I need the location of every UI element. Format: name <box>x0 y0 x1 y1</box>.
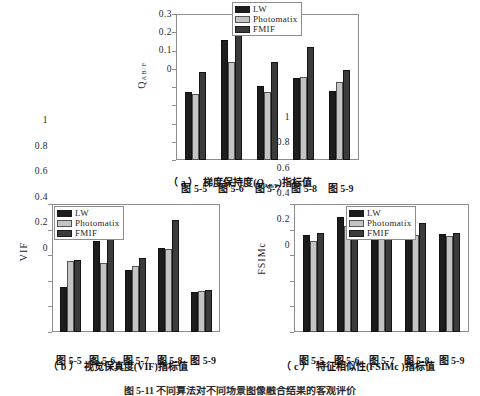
y-tick-mark <box>290 255 294 256</box>
legend-label-fmif: FMIF <box>253 25 275 34</box>
bar-photomatix-5 <box>198 291 205 332</box>
bar-group <box>439 204 460 332</box>
y-tick-mark <box>290 306 294 307</box>
bar-fmif-4 <box>172 220 179 332</box>
y-tick-label: 0.4 <box>277 188 290 198</box>
legend-b: LW Photomatix FMIF <box>54 206 124 240</box>
bar-fmif-3 <box>139 258 146 332</box>
legend-c: LW Photomatix FMIF <box>346 206 416 240</box>
legend-label-lw: LW <box>75 209 89 218</box>
bar-lw-4 <box>405 239 412 332</box>
y-tick-mark <box>172 69 176 70</box>
bar-photomatix-4 <box>300 77 307 160</box>
y-axis-label-a: QAB/F <box>136 62 147 89</box>
bar-lw-4 <box>293 78 300 160</box>
figure-bottom-caption: 图 5-11 不同算法对不同场景图像融合结果的客观评价 <box>0 386 480 396</box>
bar-photomatix-5 <box>446 236 453 332</box>
bar-lw-1 <box>60 287 67 332</box>
y-tick-mark <box>172 124 176 125</box>
y-tick-label: 0.2 <box>159 27 172 37</box>
y-axis-label-b: VIF <box>18 242 29 261</box>
bar-fmif-1 <box>317 233 324 332</box>
bar-fmif-5 <box>343 70 350 160</box>
legend-label-photomatix: Photomatix <box>367 219 412 228</box>
y-tick-mark <box>48 281 52 282</box>
y-tick-label: 0.1 <box>159 45 172 55</box>
bar-photomatix-3 <box>132 266 139 332</box>
y-tick-mark <box>172 51 176 52</box>
legend-swatch-fmif <box>235 26 250 33</box>
y-tick-mark <box>172 105 176 106</box>
x-axis-ticks-c: 图 5-5图 5-6图 5-7图 5-8图 5-9 <box>294 332 469 348</box>
chart-panel-a: QAB/F 00.10.20.30.40.50.60.70.8 图 5-5图 5… <box>0 0 480 190</box>
bar-photomatix-1 <box>67 261 74 332</box>
chart-panel-c: FSIMc 00.20.40.60.81 图 5-5图 5-6图 5-7图 5-… <box>236 190 480 396</box>
figure-container: QAB/F 00.10.20.30.40.50.60.70.8 图 5-5图 5… <box>0 0 480 396</box>
legend-swatch-fmif <box>349 230 364 237</box>
bar-fmif-4 <box>419 223 426 332</box>
legend-swatch-photomatix <box>57 220 72 227</box>
y-tick-mark <box>48 306 52 307</box>
y-tick-mark <box>172 32 176 33</box>
legend-item-fmif: FMIF <box>57 228 120 238</box>
y-tick-label: 0.6 <box>35 166 48 176</box>
bar-photomatix-3 <box>378 232 385 332</box>
bar-photomatix-3 <box>264 92 271 160</box>
bar-lw-5 <box>329 91 336 160</box>
bar-photomatix-1 <box>310 241 317 332</box>
y-tick-mark <box>48 230 52 231</box>
y-tick-label: 0 <box>285 240 290 250</box>
bar-fmif-2 <box>107 231 114 332</box>
legend-a: LW Photomatix FMIF <box>232 2 302 36</box>
legend-label-photomatix: Photomatix <box>253 15 298 24</box>
y-tick-mark <box>290 204 294 205</box>
legend-swatch-lw <box>349 210 364 217</box>
y-tick-label: 1 <box>285 112 290 122</box>
panel-caption-a: （ a ） 梯度保持度(QAB/F)指标值 <box>0 174 480 189</box>
bar-fmif-2 <box>235 18 242 160</box>
y-tick-label: 1 <box>43 115 48 125</box>
legend-item-lw: LW <box>235 4 298 14</box>
bar-fmif-1 <box>199 72 206 160</box>
legend-label-lw: LW <box>367 209 381 218</box>
legend-item-photomatix: Photomatix <box>235 14 298 24</box>
bar-group <box>125 204 146 332</box>
y-tick-label: 0.2 <box>35 217 48 227</box>
y-tick-label: 0.2 <box>277 214 290 224</box>
legend-swatch-fmif <box>57 230 72 237</box>
bar-fmif-5 <box>205 290 212 332</box>
bar-lw-5 <box>191 292 198 332</box>
legend-label-photomatix: Photomatix <box>75 219 120 228</box>
panel-caption-b: （ b ） 视觉保真度(VIF)指标值 <box>0 358 236 373</box>
x-axis-ticks-b: 图 5-5图 5-6图 5-7图 5-8图 5-9 <box>52 332 220 348</box>
bar-lw-1 <box>303 235 310 332</box>
bar-lw-5 <box>439 234 446 332</box>
bar-lw-3 <box>125 270 132 332</box>
y-tick-mark <box>290 230 294 231</box>
y-tick-mark <box>48 204 52 205</box>
bar-group <box>329 14 350 160</box>
y-tick-label: 0.8 <box>35 141 48 151</box>
chart-panel-b: VIF 00.20.40.60.81 图 5-5图 5-6图 5-7图 5-8图… <box>0 190 236 396</box>
bar-group <box>185 14 206 160</box>
bar-photomatix-2 <box>100 263 107 332</box>
legend-label-fmif: FMIF <box>75 229 97 238</box>
bar-fmif-4 <box>307 47 314 160</box>
y-tick-label: 0.4 <box>35 192 48 202</box>
y-tick-mark <box>48 255 52 256</box>
bar-group <box>191 204 212 332</box>
legend-swatch-lw <box>57 210 72 217</box>
y-axis-label-c: FSIMc <box>256 242 267 275</box>
legend-item-fmif: FMIF <box>349 228 412 238</box>
bar-fmif-1 <box>74 260 81 332</box>
y-tick-label: 0.3 <box>159 9 172 19</box>
bar-lw-1 <box>185 92 192 160</box>
bar-group <box>303 204 324 332</box>
bar-lw-3 <box>257 86 264 160</box>
bar-photomatix-2 <box>344 226 351 332</box>
legend-label-fmif: FMIF <box>367 229 389 238</box>
bar-group <box>158 204 179 332</box>
legend-item-lw: LW <box>57 208 120 218</box>
legend-item-photomatix: Photomatix <box>349 218 412 228</box>
legend-item-lw: LW <box>349 208 412 218</box>
